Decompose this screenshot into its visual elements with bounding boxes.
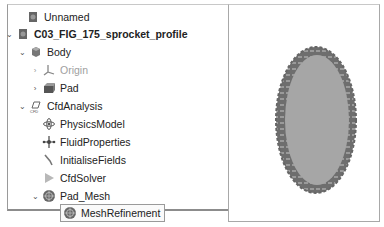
svg-text:CFD: CFD [30, 109, 38, 114]
physics-model-icon [42, 117, 56, 131]
tree-item-document[interactable]: ⌄ C03_FIG_175_sprocket_profile [4, 25, 188, 43]
selected-item-box[interactable]: MeshRefinement [60, 204, 165, 222]
mesh-refinement-icon [63, 206, 77, 220]
tree-item-label: Unnamed [44, 11, 90, 23]
initialise-fields-icon [42, 153, 56, 167]
tree-item-label: CfdAnalysis [47, 100, 102, 112]
tree-item-label: FluidProperties [60, 136, 131, 148]
tree-item-pad-mesh[interactable]: ⌄ Pad_Mesh [30, 187, 110, 205]
tree-item-cfd-analysis[interactable]: ⌄ CFD CfdAnalysis [17, 97, 102, 115]
tree-item-label: Pad [60, 82, 79, 94]
tree-item-origin[interactable]: › Origin [30, 61, 88, 79]
tree-item-fluid-properties[interactable]: FluidProperties [42, 133, 131, 151]
tree-item-mesh-refinement[interactable]: MeshRefinement [60, 204, 165, 222]
tree-item-label: C03_FIG_175_sprocket_profile [34, 28, 188, 40]
tree-item-body[interactable]: ⌄ Body [17, 43, 71, 61]
fluid-properties-icon [42, 135, 56, 149]
chevron-right-icon[interactable]: › [30, 66, 40, 75]
tree-item-initialise-fields[interactable]: InitialiseFields [42, 151, 126, 169]
tree-item-physics-model[interactable]: PhysicsModel [42, 115, 125, 133]
model-tree-panel: Unnamed ⌄ C03_FIG_175_sprocket_profile ⌄… [7, 4, 229, 211]
mesh-icon [42, 189, 56, 203]
chevron-down-icon[interactable]: ⌄ [17, 102, 27, 111]
pad-icon [42, 81, 56, 95]
cfd-analysis-icon: CFD [29, 99, 43, 113]
3d-viewport[interactable] [228, 4, 380, 222]
tree-item-label: InitialiseFields [60, 154, 126, 166]
tree-item-label: Origin [60, 64, 88, 76]
cfd-solver-icon [42, 171, 56, 185]
chevron-down-icon[interactable]: ⌄ [30, 192, 40, 201]
chevron-right-icon[interactable]: › [30, 84, 40, 93]
tree-item-label: Pad_Mesh [60, 190, 110, 202]
tree-item-unnamed[interactable]: Unnamed [16, 8, 90, 26]
body-icon [29, 45, 43, 59]
tree-item-label: CfdSolver [60, 172, 106, 184]
tree-item-cfd-solver[interactable]: CfdSolver [42, 169, 106, 187]
tree-item-label: Body [47, 46, 71, 58]
sprocket-profile-shape[interactable] [267, 43, 377, 203]
document-icon [26, 10, 40, 24]
tree-item-pad[interactable]: › Pad [30, 79, 79, 97]
chevron-down-icon[interactable]: ⌄ [17, 48, 27, 57]
tree-item-label: PhysicsModel [60, 118, 125, 130]
origin-axes-icon [42, 63, 56, 77]
chevron-down-icon[interactable]: ⌄ [4, 30, 14, 39]
tree-item-label: MeshRefinement [81, 207, 160, 219]
document-icon [16, 27, 30, 41]
